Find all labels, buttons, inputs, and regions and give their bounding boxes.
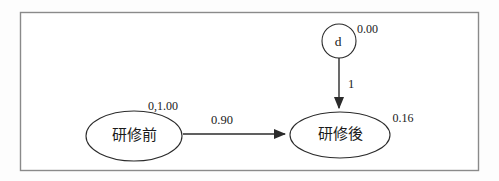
- node-error-d-param-label: 0.00: [357, 22, 378, 36]
- node-error-d-label: d: [335, 34, 342, 49]
- diagram-frame: [21, 13, 479, 171]
- sem-figure: 1 0.90 d 0.00 研修前 0,1.00 研修後 0.16: [0, 0, 499, 181]
- node-pre-param-label: 0,1.00: [148, 99, 178, 113]
- edge-d-to-post-weight-label: 1: [348, 77, 354, 91]
- node-post-label: 研修後: [318, 125, 363, 143]
- node-pre-label: 研修前: [112, 126, 157, 144]
- node-post-param-label: 0.16: [393, 111, 414, 125]
- sem-path-diagram: 1 0.90 d 0.00 研修前 0,1.00 研修後 0.16: [0, 0, 499, 181]
- edge-pre-to-post-weight-label: 0.90: [211, 113, 233, 127]
